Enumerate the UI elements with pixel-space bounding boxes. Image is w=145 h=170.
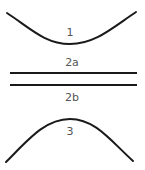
label-1: 1 xyxy=(67,26,74,39)
diagram-canvas: 1 2a 2b 3 xyxy=(0,0,145,170)
label-2a: 2a xyxy=(65,56,79,69)
label-3: 3 xyxy=(67,125,74,138)
label-2b: 2b xyxy=(65,91,79,104)
